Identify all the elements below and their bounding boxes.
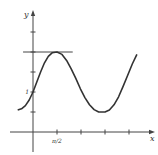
y-axis-arrow-icon [31,10,35,16]
x-tick-label: π/2 [51,137,62,144]
y-ticks: 1 [25,32,35,112]
axes: π/2 1 x y [10,10,155,152]
y-axis-label: y [23,10,29,19]
y-tick-label: 1 [25,88,29,95]
curve-line [18,52,137,112]
chart: π/2 1 x y [0,0,158,155]
x-axis-label: x [150,134,155,143]
